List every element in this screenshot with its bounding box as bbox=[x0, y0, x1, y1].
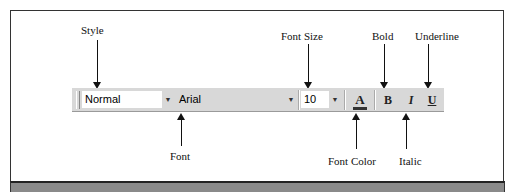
style-dropdown-button[interactable]: ▼ bbox=[162, 91, 174, 108]
style-value: Normal bbox=[85, 93, 120, 105]
callout-font-line bbox=[181, 119, 182, 146]
callout-bold-line bbox=[384, 44, 385, 84]
callout-underline-line bbox=[428, 44, 429, 84]
toolbar-separator bbox=[298, 90, 300, 110]
font-size-dropdown-button[interactable]: ▼ bbox=[329, 91, 341, 108]
font-combo[interactable]: Arial bbox=[176, 91, 296, 108]
formatting-toolbar: Normal ▼ Arial ▼ 10 ▼ A B I U bbox=[72, 88, 444, 112]
callout-style-line bbox=[97, 40, 98, 84]
font-dropdown-button[interactable]: ▼ bbox=[285, 91, 297, 108]
callout-font-size-line bbox=[308, 44, 309, 84]
chevron-down-icon: ▼ bbox=[288, 96, 295, 103]
bottom-band bbox=[10, 181, 505, 192]
callout-bold-label: Bold bbox=[372, 30, 393, 42]
chevron-down-icon: ▼ bbox=[165, 96, 172, 103]
style-combo[interactable]: Normal bbox=[82, 91, 162, 108]
italic-icon: I bbox=[409, 93, 414, 107]
bold-button[interactable]: B bbox=[377, 90, 399, 110]
underline-button[interactable]: U bbox=[421, 90, 443, 110]
chevron-down-icon: ▼ bbox=[332, 96, 339, 103]
callout-italic-label: Italic bbox=[399, 155, 422, 167]
callout-style-label: Style bbox=[81, 24, 104, 36]
callout-underline-label: Underline bbox=[415, 30, 459, 42]
toolbar-separator bbox=[374, 90, 376, 110]
toolbar-separator bbox=[344, 90, 346, 110]
callout-font-size-label: Font Size bbox=[281, 30, 323, 42]
font-color-button[interactable]: A bbox=[349, 90, 371, 110]
font-color-icon: A bbox=[353, 93, 366, 110]
italic-button[interactable]: I bbox=[400, 90, 422, 110]
callout-italic-line bbox=[406, 119, 407, 149]
toolbar-grip-handle[interactable] bbox=[76, 91, 80, 109]
font-value: Arial bbox=[179, 93, 201, 105]
font-size-value: 10 bbox=[304, 93, 316, 105]
callout-font-label: Font bbox=[170, 150, 190, 162]
font-size-combo[interactable]: 10 bbox=[301, 91, 329, 108]
callout-font-color-line bbox=[356, 119, 357, 149]
callout-font-color-label: Font Color bbox=[328, 155, 376, 167]
bold-icon: B bbox=[384, 93, 392, 107]
underline-icon: U bbox=[428, 93, 437, 107]
